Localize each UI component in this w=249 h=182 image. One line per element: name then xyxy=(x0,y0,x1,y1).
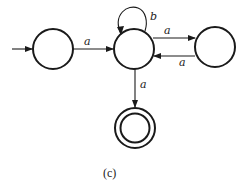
edge-label-q1-self: b xyxy=(150,10,157,23)
state-q3-accept-inner xyxy=(121,114,150,143)
state-q1 xyxy=(114,29,154,69)
automaton-diagram: a b a a a (c) xyxy=(0,0,249,182)
self-loop-arrowhead xyxy=(117,26,124,35)
figure-caption: (c) xyxy=(103,166,116,180)
edge-label-q1-q2: a xyxy=(164,24,171,37)
edge-label-q1-q3: a xyxy=(140,78,147,91)
state-q0 xyxy=(33,29,73,69)
edge-label-q0-q1: a xyxy=(84,35,91,48)
edge-label-q2-q1: a xyxy=(179,56,186,69)
state-q2 xyxy=(195,27,235,67)
